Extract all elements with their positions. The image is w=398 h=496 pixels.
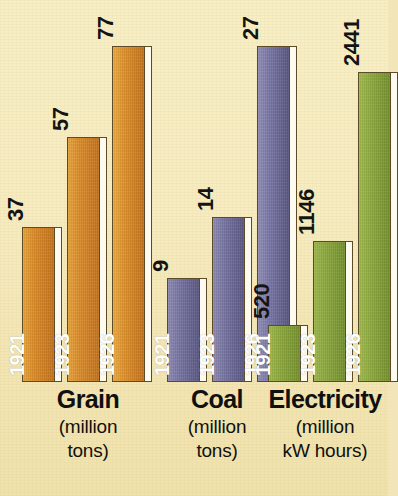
year-label-electricity-1926: 1926 (343, 334, 363, 377)
year-label-coal-1921: 1921 (152, 334, 172, 377)
bar-grain-1926[interactable] (112, 46, 145, 382)
value-label-grain-1926: 77 (95, 17, 117, 40)
bar-texture-grain-1926 (113, 47, 144, 381)
caption-grain: Grain (million tons) (8, 386, 168, 462)
value-label-electricity-1923: 1146 (296, 189, 318, 235)
caption-grain-unit-line1: (million (8, 416, 168, 438)
value-label-coal-1921: 9 (150, 260, 172, 272)
year-label-grain-1926: 1926 (97, 334, 117, 377)
caption-grain-unit-line2: tons) (8, 440, 168, 462)
value-label-coal-1923: 14 (195, 188, 217, 211)
caption-electricity: Electricity (million kW hours) (262, 386, 388, 462)
bar-group-grain: 37 1921 57 1923 77 1926 (22, 0, 152, 382)
value-label-grain-1923: 57 (50, 108, 72, 131)
bar-group-electricity: 520 1921 1146 1923 2441 1926 (268, 0, 398, 382)
bar-slot-grain-1926: 77 1926 (112, 46, 152, 382)
caption-electricity-unit-line2: kW hours) (262, 440, 388, 462)
value-label-electricity-1921: 520 (251, 284, 273, 319)
value-label-electricity-1926: 2441 (341, 19, 363, 66)
year-label-electricity-1921: 1921 (253, 334, 273, 377)
year-label-grain-1923: 1923 (52, 334, 72, 377)
year-label-electricity-1923: 1923 (298, 334, 318, 377)
plot-area: 37 1921 57 1923 77 1926 (0, 0, 388, 382)
category-captions: Grain (million tons) Coal (million tons)… (0, 382, 388, 496)
bar-slot-electricity-1926: 2441 1926 (358, 72, 398, 382)
value-label-coal-1926: 27 (240, 17, 262, 40)
caption-electricity-unit-line1: (million (262, 416, 388, 438)
caption-grain-name: Grain (8, 386, 168, 414)
caption-electricity-name: Electricity (262, 386, 388, 414)
value-label-grain-1921: 37 (5, 198, 27, 221)
year-label-coal-1923: 1923 (197, 334, 217, 377)
year-label-grain-1921: 1921 (7, 334, 27, 377)
